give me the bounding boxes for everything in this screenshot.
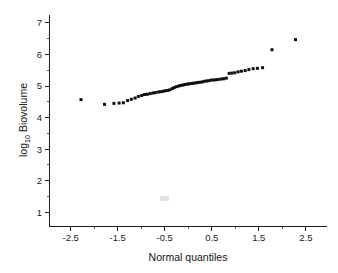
y-axis-ticklabels: 1234567 (37, 17, 42, 217)
svg-text:log10 Biovolume: log10 Biovolume (17, 83, 32, 157)
data-point (252, 67, 255, 70)
data-point (247, 68, 250, 71)
y-ticklabel-7: 7 (37, 17, 42, 28)
data-point (225, 77, 228, 80)
data-point (270, 48, 273, 51)
data-point (143, 93, 146, 96)
y-ticklabel-2: 2 (37, 175, 42, 186)
data-point (146, 93, 149, 96)
data-point (140, 94, 143, 97)
x-ticklabel-2.5: 2.5 (299, 232, 312, 243)
scan-artifact (160, 196, 169, 201)
qq-plot-figure: 1234567 -2.5-1.5-0.50.51.52.5 Normal qua… (0, 0, 338, 273)
y-ticklabel-1: 1 (37, 207, 42, 218)
y-axis-title-rest: Biovolume (17, 83, 29, 135)
x-axis-title: Normal quantiles (149, 251, 228, 263)
data-point (154, 91, 157, 94)
data-point (244, 69, 247, 72)
y-axis-title-main: log (17, 143, 29, 157)
data-point (294, 38, 297, 41)
x-ticklabel-0.5: 0.5 (205, 232, 218, 243)
data-point (149, 92, 152, 95)
data-point (228, 72, 231, 75)
x-ticklabel--1.5: -1.5 (110, 232, 126, 243)
data-point (240, 70, 243, 73)
data-point (112, 102, 115, 105)
y-ticklabel-3: 3 (37, 144, 42, 155)
data-point (237, 70, 240, 73)
x-ticklabel-1.5: 1.5 (252, 232, 265, 243)
x-ticklabel--0.5: -0.5 (157, 232, 173, 243)
plot-canvas: 1234567 -2.5-1.5-0.50.51.52.5 Normal qua… (0, 0, 338, 273)
data-point (103, 103, 106, 106)
data-point (256, 67, 259, 70)
data-point (118, 102, 121, 105)
data-point (222, 77, 225, 80)
scatter-points (80, 38, 297, 106)
axis-lines (50, 15, 328, 227)
y-axis-ticks (45, 23, 49, 212)
data-point (137, 95, 140, 98)
data-point (130, 98, 133, 101)
data-point (217, 78, 220, 81)
y-axis-title-subscript: 10 (23, 135, 32, 143)
data-point (233, 71, 236, 74)
data-point (134, 97, 137, 100)
x-ticklabel--2.5: -2.5 (62, 232, 78, 243)
data-point (122, 101, 125, 104)
data-point (261, 66, 264, 69)
y-axis-title: log10 Biovolume (17, 83, 32, 157)
y-ticklabel-6: 6 (37, 49, 42, 60)
y-ticklabel-4: 4 (37, 112, 42, 123)
x-axis-ticklabels: -2.5-1.5-0.50.51.52.5 (62, 232, 312, 243)
data-point (80, 98, 83, 101)
data-point (126, 99, 129, 102)
y-ticklabel-5: 5 (37, 80, 42, 91)
data-point (230, 72, 233, 75)
